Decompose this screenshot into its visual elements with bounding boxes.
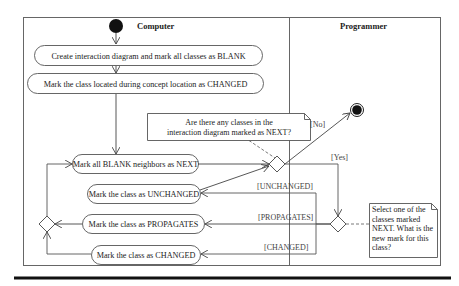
note-select-line-4: new mark for this [372, 234, 429, 243]
decision-any-next [269, 156, 285, 172]
guard-no: [No] [310, 120, 325, 129]
lane-title-programmer: Programmer [340, 21, 387, 31]
note-select-line-2: classes marked [372, 215, 420, 224]
action-mark-neighbors-next-label: Mark all BLANK neighbors as NEXT [73, 160, 198, 169]
figure-rule [14, 277, 451, 280]
flow-changed-to-merge [47, 232, 91, 254]
action-mark-propagates-label: Mark the class as PROPAGATES [89, 220, 199, 229]
note-select-line-5: class? [372, 243, 392, 252]
initial-node [109, 19, 123, 33]
activity-diagram: Computer Programmer Create interaction d… [0, 0, 459, 286]
note-select-line-3: NEXT. What is the [372, 224, 433, 233]
action-mark-unchanged-label: Mark the class as UNCHANGED [89, 190, 200, 199]
guard-unchanged: [UNCHANGED] [257, 182, 313, 191]
action-mark-located-changed-label: Mark the class located during concept lo… [44, 80, 248, 89]
flow-merge-to-neighbors [47, 164, 72, 216]
note-next-line-1: Are there any classes in the [185, 118, 273, 127]
merge-node [39, 216, 55, 232]
final-node [352, 105, 362, 115]
note-next-line-2: interaction diagram marked as NEXT? [167, 128, 291, 137]
guard-changed: [CHANGED] [264, 243, 309, 252]
guard-yes: [Yes] [331, 153, 348, 162]
note-anchor-1 [249, 141, 275, 159]
note-select-line-1: Select one of the [372, 205, 426, 214]
action-mark-changed-label: Mark the class as CHANGED [97, 251, 196, 260]
guard-propagates: [PROPAGATES] [258, 213, 314, 222]
decision-new-mark [330, 216, 346, 232]
action-create-diagram-label: Create interaction diagram and mark all … [51, 52, 245, 61]
lane-title-computer: Computer [137, 21, 175, 31]
